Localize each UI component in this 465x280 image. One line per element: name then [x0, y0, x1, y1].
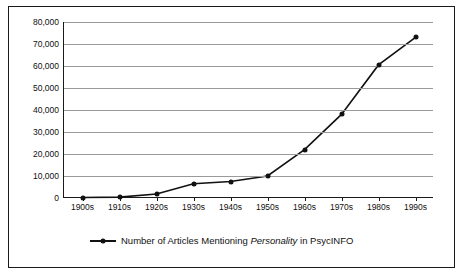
- data-point-marker: [228, 179, 233, 184]
- legend-label-prefix: Number of Articles Mentioning: [121, 235, 250, 246]
- gridline: [64, 154, 433, 155]
- x-axis-tick-label: 1980s: [367, 203, 390, 212]
- x-axis-tick-label: 1900s: [71, 203, 94, 212]
- y-axis-tick-label: 10,000: [33, 172, 59, 181]
- x-axis-tick: [379, 197, 380, 201]
- x-axis-tick-label: 1920s: [145, 203, 168, 212]
- legend-marker-icon: [90, 236, 116, 245]
- x-axis-tick: [231, 197, 232, 201]
- y-axis-tick-label: 20,000: [33, 150, 59, 159]
- x-axis-tick-label: 1960s: [293, 203, 316, 212]
- gridline: [64, 132, 433, 133]
- x-axis-tick-label: 1990s: [404, 203, 427, 212]
- x-axis-tick: [342, 197, 343, 201]
- gridline: [64, 88, 433, 89]
- x-axis-tick: [305, 197, 306, 201]
- x-axis-tick-label: 1950s: [256, 203, 279, 212]
- data-point-marker: [302, 147, 307, 152]
- x-axis-tick: [268, 197, 269, 201]
- x-axis-tick: [194, 197, 195, 201]
- data-point-marker: [154, 192, 159, 197]
- chart-container: 010,00020,00030,00040,00050,00060,00070,…: [0, 0, 465, 280]
- data-point-marker: [265, 174, 270, 179]
- y-axis-tick-label: 40,000: [33, 106, 59, 115]
- x-axis-tick: [157, 197, 158, 201]
- x-axis-tick-label: 1970s: [330, 203, 353, 212]
- gridline: [64, 44, 433, 45]
- plot-area: 010,00020,00030,00040,00050,00060,00070,…: [63, 22, 433, 198]
- x-axis-tick-label: 1940s: [219, 203, 242, 212]
- x-axis-tick-label: 1910s: [108, 203, 131, 212]
- legend-label-suffix: in PsycINFO: [297, 235, 353, 246]
- x-axis-tick: [416, 197, 417, 201]
- gridline: [64, 22, 433, 23]
- gridline: [64, 176, 433, 177]
- data-point-marker: [80, 195, 85, 200]
- data-point-marker: [413, 35, 418, 40]
- y-axis-tick-label: 70,000: [33, 40, 59, 49]
- legend-label-italic: Personality: [250, 235, 297, 246]
- y-axis-tick-label: 30,000: [33, 128, 59, 137]
- data-point-marker: [339, 112, 344, 117]
- y-axis-tick-label: 0: [54, 194, 59, 203]
- legend-label: Number of Articles Mentioning Personalit…: [121, 236, 353, 246]
- data-point-marker: [376, 62, 381, 67]
- data-point-marker: [191, 181, 196, 186]
- gridline: [64, 110, 433, 111]
- x-axis-tick-label: 1930s: [182, 203, 205, 212]
- y-axis-tick-label: 60,000: [33, 62, 59, 71]
- y-axis-tick-label: 80,000: [33, 18, 59, 27]
- y-axis-tick-label: 50,000: [33, 84, 59, 93]
- data-point-marker: [117, 195, 122, 200]
- chart-legend: Number of Articles Mentioning Personalit…: [90, 236, 353, 246]
